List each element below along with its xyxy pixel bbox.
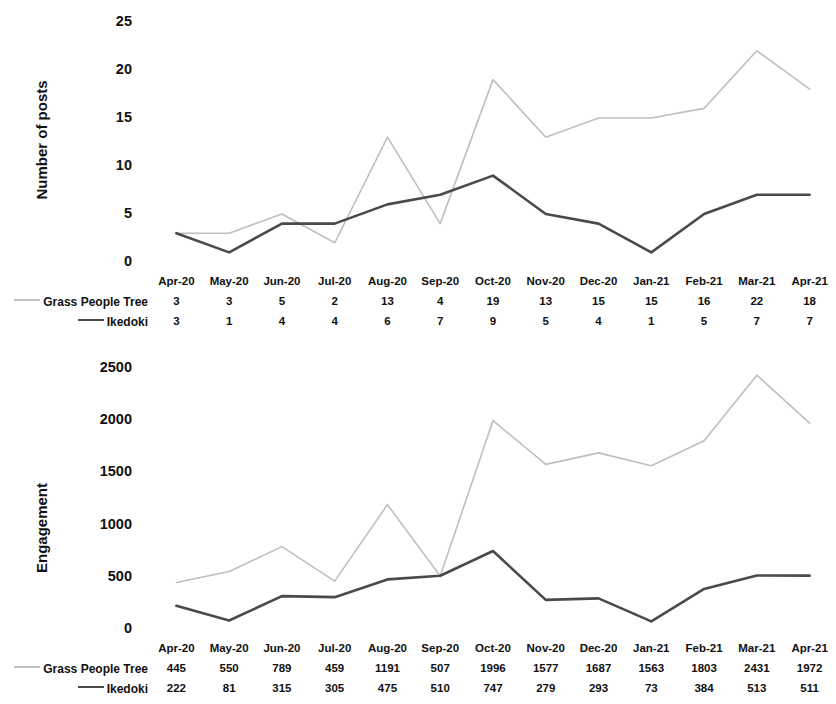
x-axis-category-label: Mar-21 bbox=[730, 638, 783, 658]
table-corner-cell bbox=[0, 638, 150, 658]
table-value-cell: 7 bbox=[414, 311, 467, 331]
table-value-cell: 293 bbox=[572, 678, 625, 698]
legend-series-name: Grass People Tree bbox=[43, 294, 148, 308]
legend-series-name: Ikedoki bbox=[107, 681, 148, 695]
legend-series-name: Grass People Tree bbox=[43, 661, 148, 675]
x-axis-category-label: Oct-20 bbox=[467, 271, 520, 291]
x-axis-category-label: Nov-20 bbox=[519, 271, 572, 291]
table-row-categories: Apr-20May-20Jun-20Jul-20Aug-20Sep-20Oct-… bbox=[0, 271, 836, 291]
table-value-cell: 475 bbox=[361, 678, 414, 698]
data-table-posts: Apr-20May-20Jun-20Jul-20Aug-20Sep-20Oct-… bbox=[0, 271, 836, 331]
line-plot-engagement bbox=[0, 348, 836, 638]
table-value-cell: 507 bbox=[414, 658, 467, 678]
x-axis-category-label: Aug-20 bbox=[361, 638, 414, 658]
table-value-cell: 81 bbox=[203, 678, 256, 698]
table-value-cell: 1191 bbox=[361, 658, 414, 678]
table-value-cell: 1803 bbox=[678, 658, 731, 678]
legend-item-grass-people-tree: Grass People Tree bbox=[0, 291, 150, 311]
legend-item-grass-people-tree: Grass People Tree bbox=[0, 658, 150, 678]
table-value-cell: 1563 bbox=[625, 658, 678, 678]
legend-line-swatch-icon bbox=[14, 299, 40, 301]
table-value-cell: 7 bbox=[730, 311, 783, 331]
table-value-cell: 13 bbox=[361, 291, 414, 311]
table-value-cell: 510 bbox=[414, 678, 467, 698]
table-value-cell: 9 bbox=[467, 311, 520, 331]
table-value-cell: 1577 bbox=[519, 658, 572, 678]
legend-line-swatch-icon bbox=[78, 686, 104, 688]
x-axis-category-label: Jun-20 bbox=[256, 271, 309, 291]
table-value-cell: 789 bbox=[256, 658, 309, 678]
table-value-cell: 5 bbox=[678, 311, 731, 331]
table-value-cell: 18 bbox=[783, 291, 836, 311]
table-value-cell: 2 bbox=[308, 291, 361, 311]
legend-series-name: Ikedoki bbox=[107, 314, 148, 328]
table-row: Ikedoki222813153054755107472792937338451… bbox=[0, 678, 836, 698]
series-line-ikedoki bbox=[176, 176, 809, 253]
table-row: Ikedoki3144679541577 bbox=[0, 311, 836, 331]
table-value-cell: 1972 bbox=[783, 658, 836, 678]
table-corner-cell bbox=[0, 271, 150, 291]
table-value-cell: 315 bbox=[256, 678, 309, 698]
table-value-cell: 22 bbox=[730, 291, 783, 311]
table-value-cell: 459 bbox=[308, 658, 361, 678]
x-axis-category-label: Apr-20 bbox=[150, 638, 203, 658]
x-axis-category-label: Jan-21 bbox=[625, 271, 678, 291]
table-value-cell: 384 bbox=[678, 678, 731, 698]
x-axis-category-label: Feb-21 bbox=[678, 638, 731, 658]
x-axis-category-label: May-20 bbox=[203, 638, 256, 658]
chart-panel-number-of-posts: Number of posts 2520151050 Apr-20May-20J… bbox=[0, 0, 836, 340]
line-plot-posts bbox=[0, 0, 836, 290]
table-value-cell: 4 bbox=[414, 291, 467, 311]
table-value-cell: 1687 bbox=[572, 658, 625, 678]
table-value-cell: 16 bbox=[678, 291, 731, 311]
table-value-cell: 1996 bbox=[467, 658, 520, 678]
x-axis-category-label: Jul-20 bbox=[308, 271, 361, 291]
table-value-cell: 13 bbox=[519, 291, 572, 311]
x-axis-category-label: Apr-20 bbox=[150, 271, 203, 291]
x-axis-category-label: Apr-21 bbox=[783, 638, 836, 658]
x-axis-category-label: Oct-20 bbox=[467, 638, 520, 658]
table-value-cell: 5 bbox=[256, 291, 309, 311]
table-value-cell: 3 bbox=[150, 311, 203, 331]
table-row-categories: Apr-20May-20Jun-20Jul-20Aug-20Sep-20Oct-… bbox=[0, 638, 836, 658]
table-value-cell: 4 bbox=[256, 311, 309, 331]
table-value-cell: 73 bbox=[625, 678, 678, 698]
table-value-cell: 511 bbox=[783, 678, 836, 698]
table-value-cell: 550 bbox=[203, 658, 256, 678]
table-value-cell: 6 bbox=[361, 311, 414, 331]
x-axis-category-label: Mar-21 bbox=[730, 271, 783, 291]
chart-panel-engagement: Engagement 25002000150010005000 Apr-20Ma… bbox=[0, 348, 836, 704]
table-value-cell: 1 bbox=[203, 311, 256, 331]
table-value-cell: 4 bbox=[308, 311, 361, 331]
x-axis-category-label: Feb-21 bbox=[678, 271, 731, 291]
table-value-cell: 279 bbox=[519, 678, 572, 698]
x-axis-category-label: Jan-21 bbox=[625, 638, 678, 658]
table-value-cell: 4 bbox=[572, 311, 625, 331]
table-value-cell: 3 bbox=[203, 291, 256, 311]
table-value-cell: 7 bbox=[783, 311, 836, 331]
data-table-engagement: Apr-20May-20Jun-20Jul-20Aug-20Sep-20Oct-… bbox=[0, 638, 836, 698]
table-value-cell: 15 bbox=[572, 291, 625, 311]
table-value-cell: 445 bbox=[150, 658, 203, 678]
table-value-cell: 747 bbox=[467, 678, 520, 698]
x-axis-category-label: Jun-20 bbox=[256, 638, 309, 658]
x-axis-category-label: May-20 bbox=[203, 271, 256, 291]
legend-line-swatch-icon bbox=[78, 319, 104, 321]
x-axis-category-label: Aug-20 bbox=[361, 271, 414, 291]
legend-item-ikedoki: Ikedoki bbox=[0, 311, 150, 331]
table-value-cell: 1 bbox=[625, 311, 678, 331]
table-value-cell: 513 bbox=[730, 678, 783, 698]
x-axis-category-label: Jul-20 bbox=[308, 638, 361, 658]
x-axis-category-label: Dec-20 bbox=[572, 271, 625, 291]
table-value-cell: 222 bbox=[150, 678, 203, 698]
series-line-ikedoki bbox=[176, 551, 809, 621]
x-axis-category-label: Apr-21 bbox=[783, 271, 836, 291]
table-row: Grass People Tree44555078945911915071996… bbox=[0, 658, 836, 678]
x-axis-category-label: Dec-20 bbox=[572, 638, 625, 658]
x-axis-category-label: Sep-20 bbox=[414, 271, 467, 291]
table-row: Grass People Tree335213419131515162218 bbox=[0, 291, 836, 311]
x-axis-category-label: Sep-20 bbox=[414, 638, 467, 658]
x-axis-category-label: Nov-20 bbox=[519, 638, 572, 658]
table-value-cell: 2431 bbox=[730, 658, 783, 678]
table-value-cell: 3 bbox=[150, 291, 203, 311]
